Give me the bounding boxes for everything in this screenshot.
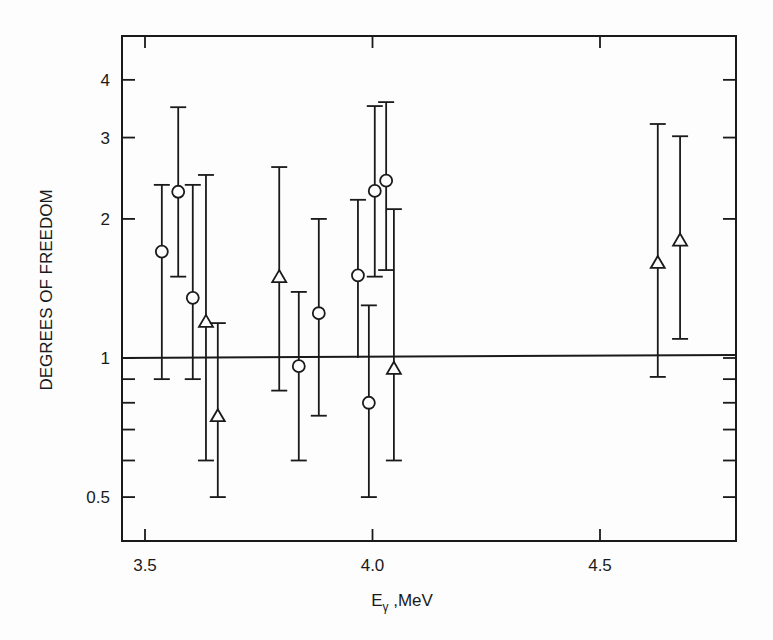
x-tick-label: 4.5 [588,556,612,575]
circle-marker [172,186,184,198]
x-axis-label: Eγ ,MeV [371,591,433,614]
data-points [154,102,688,497]
x-tick-label: 3.5 [133,556,157,575]
circle-data-point [378,102,394,270]
triangle-marker [199,315,213,327]
circle-marker [369,185,381,197]
chart-canvas: 3.54.04.50.51234 DEGREES OF FREEDOM Eγ ,… [0,0,773,640]
triangle-marker [673,234,687,246]
triangle-data-point [210,323,226,497]
y-tick-label: 4 [101,71,110,90]
circle-marker [352,269,364,281]
circle-data-point [361,305,377,497]
y-tick-label: 3 [101,129,110,148]
triangle-data-point [198,175,214,461]
circle-marker [187,292,199,304]
circle-marker [363,397,375,409]
plot-frame [122,36,736,541]
triangle-data-point [386,209,402,460]
plot-border [122,36,736,541]
y-tick-label: 1 [101,349,110,368]
circle-data-point [154,185,170,379]
triangle-marker [272,270,286,282]
circle-data-point [291,292,307,461]
x-axis-label-unit: ,MeV [388,591,433,610]
triangle-data-point [672,136,688,339]
x-tick-label: 4.0 [361,556,385,575]
reference-line [122,355,736,358]
circle-data-point [311,219,327,416]
circle-marker [380,175,392,187]
triangle-data-point [650,124,666,377]
circle-data-point [350,200,366,358]
circle-data-point [185,185,201,379]
triangle-marker [651,256,665,268]
circle-data-point [367,106,383,277]
triangle-marker [387,362,401,374]
circle-marker [293,360,305,372]
y-tick-label: 2 [101,210,110,229]
reference-line-y1 [122,355,736,358]
circle-marker [313,307,325,319]
y-axis-label: DEGREES OF FREEDOM [37,189,56,390]
axis-ticks: 3.54.04.50.51234 [86,36,736,575]
circle-marker [156,246,168,258]
triangle-marker [211,409,225,421]
circle-data-point [170,107,186,276]
y-tick-label: 0.5 [86,488,110,507]
x-axis-label-main: E [371,591,382,610]
